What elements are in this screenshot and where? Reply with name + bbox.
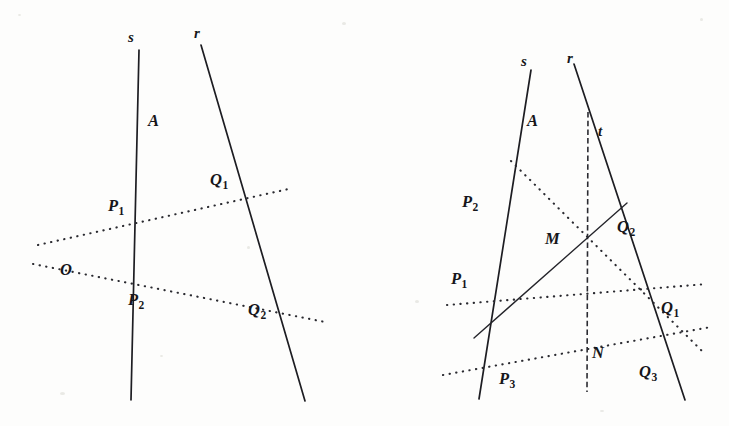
right-label-point-P3: P3 <box>499 371 515 388</box>
left-dotted-line-P1Q1 <box>38 188 293 245</box>
right-label-point-Q1: Q1 <box>661 300 679 317</box>
left-label-point-A: A <box>148 113 159 130</box>
point-base: P <box>499 369 509 388</box>
left-line-s <box>131 50 139 400</box>
point-base: N <box>592 343 604 362</box>
point-subscript: 2 <box>629 226 635 238</box>
right-dotted-line-P3-Q3 <box>443 327 711 375</box>
point-subscript: 2 <box>260 309 266 321</box>
right-segment-P1-Q2 <box>474 203 627 338</box>
right-label-point-Q3: Q3 <box>639 364 657 381</box>
point-subscript: 1 <box>222 179 228 191</box>
right-label-point-N: N <box>592 345 604 362</box>
right-label-point-P1: P1 <box>451 271 467 288</box>
left-dotted-line-P2Q2 <box>33 264 325 322</box>
left-label-point-P2: P2 <box>128 292 144 309</box>
left-construction <box>33 45 325 401</box>
point-subscript: 1 <box>119 205 125 217</box>
point-base: Q <box>661 298 673 317</box>
left-line-r <box>201 45 305 401</box>
point-base: P <box>128 290 138 309</box>
point-subscript: 2 <box>473 201 479 213</box>
point-subscript: 1 <box>673 307 679 319</box>
point-subscript: 3 <box>510 378 516 390</box>
point-base: Q <box>248 300 260 319</box>
left-label-line-s: s <box>128 30 134 45</box>
point-base: A <box>148 111 159 130</box>
right-construction <box>443 64 711 400</box>
point-base: P <box>462 192 472 211</box>
point-base: M <box>545 229 560 248</box>
point-base: Q <box>210 170 222 189</box>
right-label-point-Q2: Q2 <box>617 219 635 236</box>
point-base: P <box>451 269 461 288</box>
point-subscript: 1 <box>462 278 468 290</box>
point-base: P <box>108 196 118 215</box>
right-label-point-M: M <box>545 231 560 248</box>
left-label-point-Q1: Q1 <box>210 172 228 189</box>
point-subscript: 3 <box>651 371 657 383</box>
right-label-point-A: A <box>527 113 538 130</box>
right-line-s <box>479 70 531 399</box>
left-label-point-O: O <box>60 262 72 279</box>
left-label-point-Q2: Q2 <box>248 302 266 319</box>
left-label-line-r: r <box>194 26 200 41</box>
right-label-line-t: t <box>598 124 602 139</box>
point-base: Q <box>639 362 651 381</box>
left-label-point-P1: P1 <box>108 198 124 215</box>
point-base: A <box>527 111 538 130</box>
point-base: Q <box>617 217 629 236</box>
point-subscript: 2 <box>139 299 145 311</box>
right-label-point-P2: P2 <box>462 194 478 211</box>
right-dotted-line-P2-Q1 <box>511 161 703 352</box>
figure-root: s r A Q1 P1 O P2 Q2 s r t A P2 Q2 M P1 Q… <box>0 0 729 426</box>
right-label-line-s: s <box>521 54 527 69</box>
point-base: O <box>60 260 72 279</box>
right-label-line-r: r <box>567 51 573 66</box>
